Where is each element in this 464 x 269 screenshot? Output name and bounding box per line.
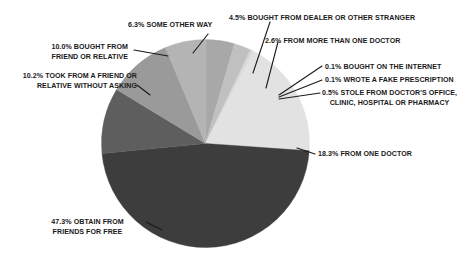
callout-bought-from-friend: 10.0% BOUGHT FROM FRIEND OR RELATIVE <box>0 42 128 62</box>
callout-stole: 0.5% STOLE FROM DOCTOR'S OFFICE, CLINIC,… <box>322 88 457 108</box>
callout-fake-prescription-line1: 0.1% WROTE A FAKE PRESCRIPTION <box>325 75 454 85</box>
callout-some-other-way: 6.3% SOME OTHER WAY <box>128 20 212 30</box>
callout-internet-line1: 0.1% BOUGHT ON THE INTERNET <box>325 62 441 72</box>
callout-took-without-asking-line2: RELATIVE WITHOUT ASKING <box>0 81 137 91</box>
callout-more-than-one-doctor-line1: 2.6% FROM MORE THAN ONE DOCTOR <box>265 36 400 46</box>
callout-some-other-way-line1: 6.3% SOME OTHER WAY <box>128 20 212 30</box>
callout-friends-free-line1: 47.3% OBTAIN FROM <box>30 217 145 227</box>
callout-one-doctor-line1: 18.3% FROM ONE DOCTOR <box>318 149 412 159</box>
callout-fake-prescription: 0.1% WROTE A FAKE PRESCRIPTION <box>325 75 454 85</box>
callout-bought-from-friend-line2: FRIEND OR RELATIVE <box>0 52 128 62</box>
callout-stole-line1: 0.5% STOLE FROM DOCTOR'S OFFICE, <box>322 88 457 98</box>
callout-bought-from-friend-line1: 10.0% BOUGHT FROM <box>0 42 128 52</box>
callout-one-doctor: 18.3% FROM ONE DOCTOR <box>318 149 412 159</box>
callout-friends-free: 47.3% OBTAIN FROM FRIENDS FOR FREE <box>30 217 145 237</box>
pie-chart-figure: 4.5% BOUGHT FROM DEALER OR OTHER STRANGE… <box>0 0 464 269</box>
callout-took-without-asking: 10.2% TOOK FROM A FRIEND OR RELATIVE WIT… <box>0 71 137 91</box>
callout-dealer-line1: 4.5% BOUGHT FROM DEALER OR OTHER STRANGE… <box>229 13 415 23</box>
callout-stole-line2: CLINIC, HOSPITAL OR PHARMACY <box>322 98 457 108</box>
callout-more-than-one-doctor: 2.6% FROM MORE THAN ONE DOCTOR <box>265 36 400 46</box>
callout-internet: 0.1% BOUGHT ON THE INTERNET <box>325 62 441 72</box>
callout-friends-free-line2: FRIENDS FOR FREE <box>30 227 145 237</box>
callout-took-without-asking-line1: 10.2% TOOK FROM A FRIEND OR <box>0 71 137 81</box>
callout-dealer: 4.5% BOUGHT FROM DEALER OR OTHER STRANGE… <box>229 13 415 23</box>
